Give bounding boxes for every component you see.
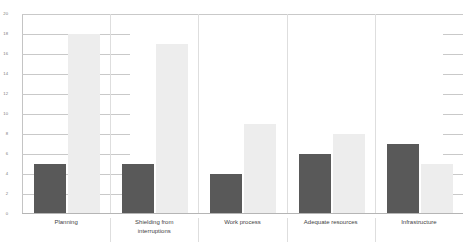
bar — [156, 44, 188, 214]
y-tick-label: 0 — [0, 212, 8, 216]
x-category-label: Shielding from interruptions — [110, 218, 198, 235]
bar — [34, 164, 66, 214]
bar-chart: 02468101214161820 PlanningShielding from… — [0, 0, 473, 248]
y-tick-label: 16 — [0, 52, 8, 56]
bar — [333, 134, 365, 214]
plot-area: 02468101214161820 — [22, 14, 463, 214]
bar — [421, 164, 453, 214]
x-axis-baseline — [22, 213, 463, 214]
y-tick-label: 10 — [0, 112, 8, 116]
bar-group — [198, 14, 286, 214]
category-separator-lower — [110, 218, 111, 242]
bar — [68, 34, 100, 214]
y-tick-label: 14 — [0, 72, 8, 76]
x-category-label: Infrastructure — [375, 218, 463, 227]
category-separator-lower — [375, 218, 376, 242]
bar-group — [22, 14, 110, 214]
category-separator-lower — [287, 218, 288, 242]
x-category-label: Planning — [22, 218, 110, 227]
y-tick-label: 12 — [0, 92, 8, 96]
bar — [122, 164, 154, 214]
category-separator-lower — [198, 218, 199, 242]
bar — [244, 124, 276, 214]
y-tick-label: 8 — [0, 132, 8, 136]
y-tick-label: 20 — [0, 12, 8, 16]
y-tick-label: 18 — [0, 32, 8, 36]
x-axis-category-labels: PlanningShielding from interruptionsWork… — [22, 218, 463, 246]
bar-group — [287, 14, 375, 214]
bar — [210, 174, 242, 214]
y-tick-label: 4 — [0, 172, 8, 176]
y-tick-label: 2 — [0, 192, 8, 196]
x-category-label: Work process — [198, 218, 286, 227]
y-tick-label: 6 — [0, 152, 8, 156]
bar-group — [375, 14, 463, 214]
bar — [299, 154, 331, 214]
x-category-label: Adequate resources — [287, 218, 375, 227]
bar — [387, 144, 419, 214]
bar-group — [110, 14, 198, 214]
